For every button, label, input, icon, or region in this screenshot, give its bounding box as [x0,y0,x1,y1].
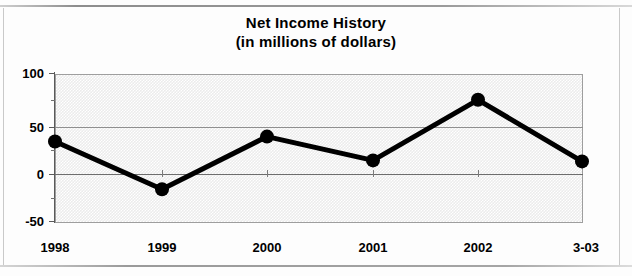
line-net-income [55,100,582,189]
x-axis-label-3-03: 3-03 [551,240,621,255]
chart-canvas: 100 50 0 -50 1998 1999 2000 2001 2002 3-… [0,0,632,276]
data-point-2002 [471,93,485,107]
marker-group [48,93,589,196]
data-point-1999 [155,182,169,196]
data-point-1998 [48,135,62,149]
data-point-2000 [260,130,274,144]
data-point-3-03 [575,154,589,168]
data-series-layer [0,0,632,276]
x-axis-label-1998: 1998 [20,240,90,255]
chart-page: Net Income History (in millions of dolla… [0,0,632,276]
x-axis-label-2001: 2001 [338,240,408,255]
x-axis-label-2002: 2002 [443,240,513,255]
x-axis-label-1999: 1999 [127,240,197,255]
x-axis-label-2000: 2000 [232,240,302,255]
data-point-2001 [366,153,380,167]
